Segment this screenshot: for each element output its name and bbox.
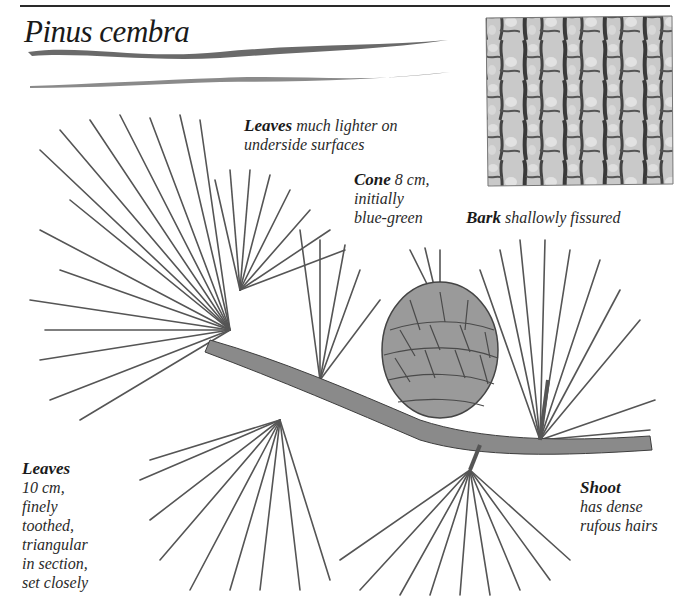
caption-bark: Bark shallowly fissured (466, 208, 620, 227)
caption-cone-label: Cone (354, 170, 391, 189)
caption-shoot-label: Shoot (580, 478, 621, 497)
caption-leaves-upper-label: Leaves (244, 116, 292, 135)
caption-leaves-lower-label: Leaves (22, 459, 70, 478)
pine-cone-illustration (382, 282, 498, 418)
caption-leaves-upper: Leaves much lighter on underside surface… (244, 116, 397, 154)
caption-cone: Cone 8 cm, initially blue-green (354, 170, 430, 227)
caption-bark-label: Bark (466, 208, 501, 227)
needles (30, 115, 655, 595)
caption-shoot: Shoot has dense rufous hairs (580, 478, 658, 535)
caption-leaves-lower: Leaves 10 cm, finely toothed, triangular… (22, 459, 88, 592)
